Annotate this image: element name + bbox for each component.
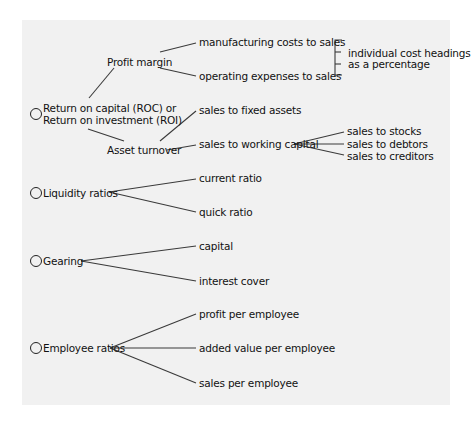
bullet-circle-icon [30, 108, 42, 120]
node-current-ratio: current ratio [199, 172, 262, 184]
bullet-circle-icon [30, 255, 42, 267]
root-roc-line1: Return on capital (ROC) or [43, 102, 176, 114]
node-interest-cover: interest cover [199, 275, 269, 287]
node-manufacturing-costs: manufacturing costs to sales [199, 36, 345, 48]
node-sales-working-capital: sales to working capital [199, 138, 318, 150]
node-quick-ratio: quick ratio [199, 206, 252, 218]
node-sales-creditors: sales to creditors [347, 150, 434, 162]
node-sales-debtors: sales to debtors [347, 138, 428, 150]
root-liquidity-ratios: Liquidity ratios [43, 187, 118, 199]
node-added-value-per-employee: added value per employee [199, 342, 335, 354]
node-sales-per-employee: sales per employee [199, 377, 298, 389]
node-operating-expenses: operating expenses to sales [199, 70, 341, 82]
root-gearing: Gearing [43, 255, 83, 267]
node-profit-margin: Profit margin [107, 56, 172, 68]
node-sales-stocks: sales to stocks [347, 125, 421, 137]
root-employee-ratios: Employee ratios [43, 342, 125, 354]
bullet-circle-icon [30, 187, 42, 199]
note-line2: as a percentage [348, 58, 430, 70]
node-profit-per-employee: profit per employee [199, 308, 299, 320]
root-roc-line2: Return on investment (ROI) [43, 114, 182, 126]
node-sales-fixed-assets: sales to fixed assets [199, 104, 301, 116]
bullet-circle-icon [30, 342, 42, 354]
node-asset-turnover: Asset turnover [107, 144, 181, 156]
node-capital: capital [199, 240, 233, 252]
